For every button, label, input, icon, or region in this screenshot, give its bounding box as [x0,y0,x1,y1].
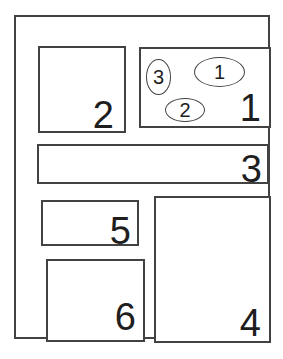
region-3-label: 3 [241,150,262,188]
oval-2: 2 [165,98,205,122]
region-4: 4 [154,196,271,343]
oval-3-label: 3 [153,67,164,87]
region-3: 3 [37,144,269,184]
oval-3: 3 [146,59,171,95]
diagram-canvas: 2 3 1 2 1 3 5 6 4 [0,0,283,359]
region-1-label: 1 [240,89,261,127]
oval-1-label: 1 [214,62,225,82]
oval-2-label: 2 [179,100,190,120]
region-1: 3 1 2 1 [139,47,271,128]
outer-frame: 2 3 1 2 1 3 5 6 4 [14,15,270,339]
region-5-label: 5 [110,212,131,250]
region-5: 5 [41,200,139,246]
region-2-label: 2 [93,96,114,134]
region-4-label: 4 [240,304,261,342]
region-6-label: 6 [115,298,136,336]
region-2: 2 [38,46,126,133]
oval-1: 1 [194,57,245,87]
region-6: 6 [46,259,145,342]
